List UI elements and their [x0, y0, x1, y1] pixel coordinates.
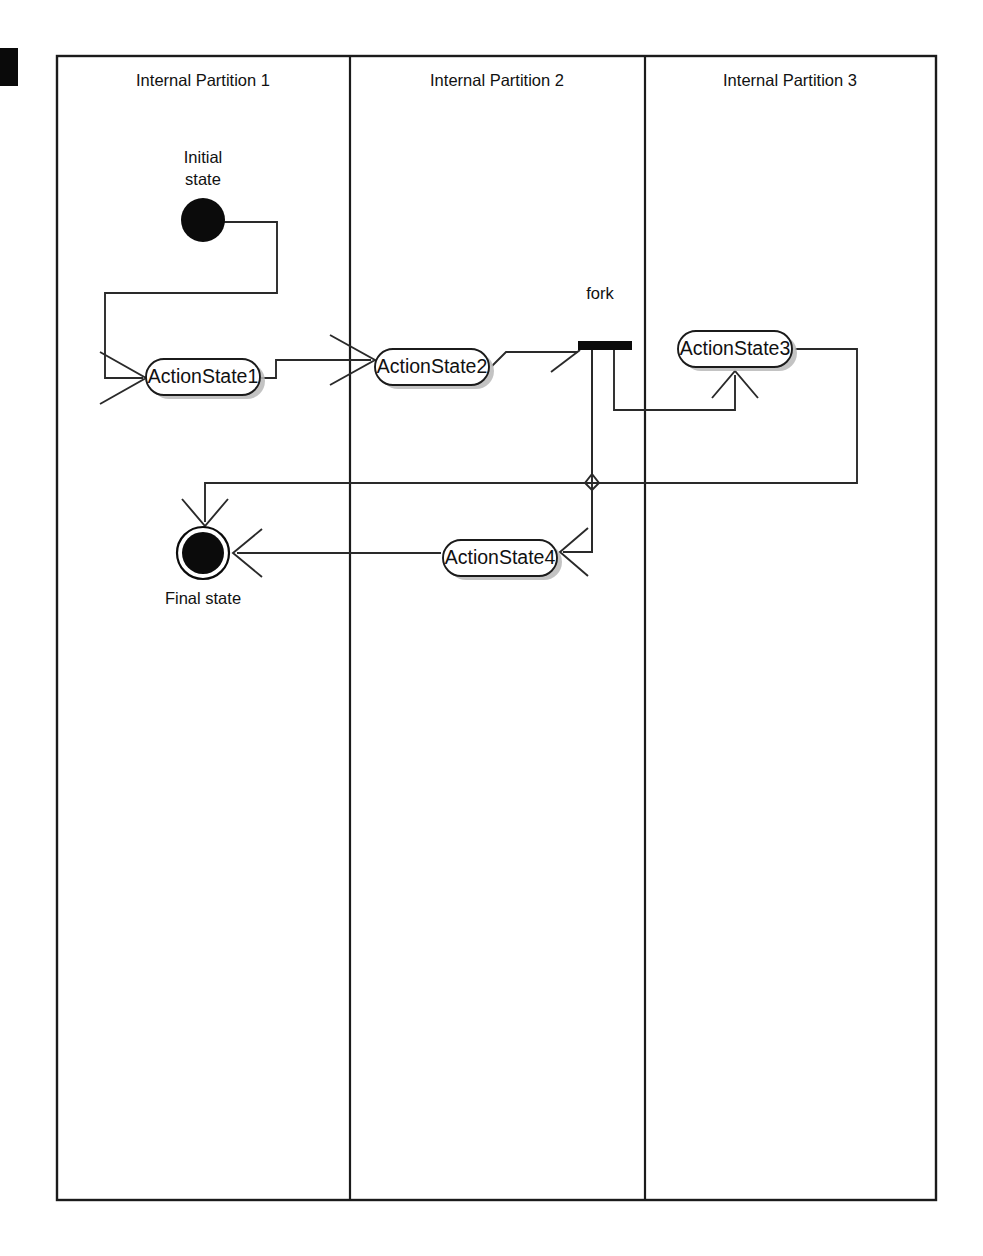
initial-state-disc: [181, 198, 225, 242]
fork-bar: [578, 341, 632, 350]
partition-label-2: Internal Partition 2: [430, 71, 564, 89]
actionstate4-label: ActionState4: [445, 546, 556, 568]
fork-label: fork: [586, 284, 614, 302]
actionstate2-label: ActionState2: [377, 355, 488, 377]
node-actionstate1[interactable]: ActionState1: [146, 359, 265, 399]
initial-state-label-line2: state: [185, 170, 221, 188]
node-initial-state[interactable]: Initial state: [181, 148, 225, 242]
partition-label-1: Internal Partition 1: [136, 71, 270, 89]
transition-actionstate4-to-final: [233, 529, 441, 577]
activity-diagram-canvas: Internal Partition 1 Internal Partition …: [0, 0, 983, 1256]
initial-state-label-line1: Initial: [184, 148, 223, 166]
node-actionstate3[interactable]: ActionState3: [678, 331, 797, 371]
actionstate1-label: ActionState1: [148, 365, 259, 387]
actionstate3-label: ActionState3: [680, 337, 791, 359]
node-final-state[interactable]: Final state: [165, 527, 241, 607]
transition-actionstate3-to-final: [182, 349, 857, 526]
partition-label-3: Internal Partition 3: [723, 71, 857, 89]
final-state-disc: [182, 532, 224, 574]
node-actionstate2[interactable]: ActionState2: [375, 349, 494, 389]
transition-actionstate1-to-actionstate2: [261, 335, 375, 385]
transition-actionstate2-to-fork: [492, 350, 580, 372]
final-state-label: Final state: [165, 589, 241, 607]
diagram-page: Internal Partition 1 Internal Partition …: [0, 0, 983, 1256]
transition-fork-to-actionstate4: [560, 350, 599, 576]
node-actionstate4[interactable]: ActionState4: [443, 540, 562, 580]
